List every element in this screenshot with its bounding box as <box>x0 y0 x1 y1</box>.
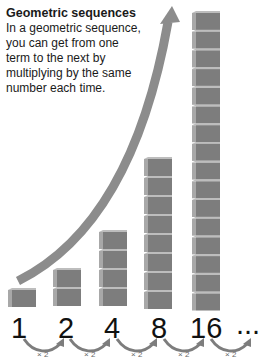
term-3: 4 <box>104 313 120 343</box>
stack-16 <box>192 11 220 311</box>
term-2: 2 <box>58 313 74 343</box>
term-5: 16 <box>190 313 222 343</box>
term-1: 1 <box>11 313 27 343</box>
multiplier-label: × 2 <box>37 350 48 359</box>
multiplier-label: × 2 <box>84 350 95 359</box>
multiplier-label: × 2 <box>178 350 189 359</box>
stack-8 <box>144 157 172 309</box>
cube-stacks-illustration <box>0 0 262 362</box>
term-4: 8 <box>151 313 167 343</box>
stack-2 <box>53 268 81 306</box>
multiplier-label: × 2 <box>225 350 236 359</box>
term-ellipsis: ... <box>236 309 260 339</box>
multiplier-label: × 2 <box>131 350 142 359</box>
stack-4 <box>99 230 127 306</box>
stack-1 <box>8 288 36 307</box>
